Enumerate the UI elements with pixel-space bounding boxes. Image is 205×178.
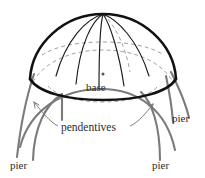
dome-pendentives-diagram: base pendentives pier pier pier: [0, 0, 205, 178]
label-pier-back-right: pier: [172, 113, 189, 124]
label-base: base: [86, 82, 106, 93]
dome-latitude-dashed-arc: [42, 42, 164, 55]
dome-meridian-4: [103, 14, 124, 86]
label-pier-left: pier: [10, 160, 27, 171]
pendentive-leader-right: [130, 104, 153, 126]
pendentive-arch-front: [20, 89, 175, 150]
dome-meridian-group: [56, 14, 149, 88]
base-circle-hidden-arc: [33, 50, 173, 82]
label-pendentives: pendentives: [61, 122, 116, 134]
base-center-point: [102, 73, 105, 76]
pier-left-shaft: [17, 74, 34, 157]
dome-meridian-1: [56, 14, 103, 76]
dome-shell-outline: [30, 14, 176, 79]
dome-meridian-3: [99, 14, 103, 88]
dome-meridian-5: [103, 14, 149, 76]
label-pier-right: pier: [152, 160, 169, 171]
